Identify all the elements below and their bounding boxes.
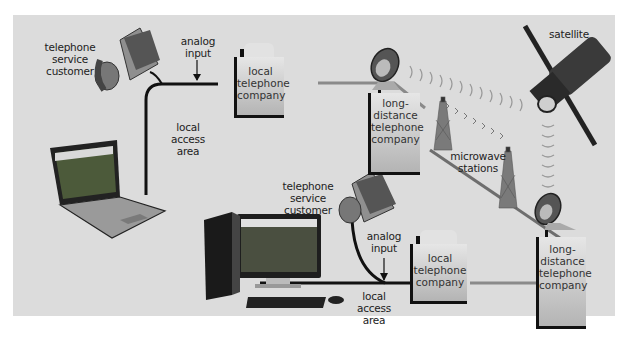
diagram-stage: local telephone company long- distance t… [0, 0, 642, 337]
long-distance-company-top-label: long- distance telephone company [371, 97, 420, 145]
satellite-label: satellite [545, 28, 593, 40]
microwave-stations-label: microwave stations [448, 150, 508, 174]
satellite-icon [525, 26, 613, 145]
microwave-signal-icon [446, 103, 503, 139]
customer-top-label: telephone service customer [28, 41, 112, 77]
analog-input-top-label: analog input [178, 35, 218, 59]
analog-input-bottom-label: analog input [364, 230, 404, 254]
laptop-icon [50, 140, 165, 238]
long-distance-company-bottom: long- distance telephone company [536, 237, 586, 329]
long-distance-company-bottom-label: long- distance telephone company [539, 243, 586, 291]
local-telephone-company-top: local telephone company [234, 43, 284, 118]
long-distance-company-top: long- distance telephone company [368, 87, 420, 175]
local-access-bottom-label: local access area [354, 290, 394, 326]
local-access-top-label: local access area [168, 121, 208, 157]
microwave-tower-icon [434, 97, 452, 150]
desktop-computer-icon [204, 212, 344, 308]
local-telephone-company-bottom-label: local telephone company [413, 252, 467, 288]
customer-bottom-label: telephone service customer [266, 180, 350, 216]
local-telephone-company-bottom: local telephone company [410, 230, 467, 304]
satellite-dish-icon [530, 189, 576, 238]
local-telephone-company-top-label: local telephone company [237, 65, 284, 101]
